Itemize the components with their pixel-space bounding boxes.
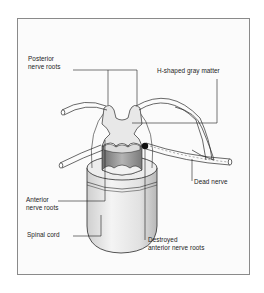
label-dead-nerve: Dead nerve: [194, 178, 228, 186]
label-posterior-line1: Posterior: [28, 55, 61, 63]
nerve-roots: [59, 98, 232, 168]
label-anterior-line1: Anterior: [26, 196, 59, 204]
label-anterior-roots: Anterior nerve roots: [26, 196, 59, 211]
label-destroyed-line2: anterior nerve roots: [148, 244, 204, 252]
label-posterior-line2: nerve roots: [28, 63, 61, 71]
cord-cross-section: [102, 105, 148, 175]
label-spinal-cord: Spinal cord: [27, 231, 60, 239]
label-gray-matter: H-shaped gray matter: [157, 67, 220, 75]
spinal-cord-illustration: [0, 0, 264, 293]
label-posterior-roots: Posterior nerve roots: [28, 55, 61, 70]
label-destroyed-roots: Destroyed anterior nerve roots: [148, 236, 204, 251]
gray-matter-shape: [102, 105, 142, 146]
label-destroyed-line1: Destroyed: [148, 236, 204, 244]
label-anterior-line2: nerve roots: [26, 204, 59, 212]
